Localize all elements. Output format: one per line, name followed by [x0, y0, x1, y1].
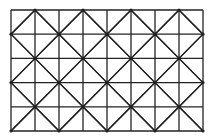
grid-diagram — [0, 0, 220, 138]
grid-line — [35, 0, 59, 10]
grid-line — [131, 83, 155, 107]
grid-line — [0, 107, 11, 131]
grid-line — [0, 10, 11, 34]
node-dot — [57, 33, 60, 36]
grid-line — [179, 10, 203, 34]
grid-line — [59, 83, 83, 107]
grid-line — [35, 131, 59, 138]
grid-line — [203, 58, 220, 82]
grid-line — [59, 0, 83, 10]
grid-lines — [11, 10, 203, 131]
grid-line — [131, 107, 155, 131]
grid-line — [179, 83, 203, 107]
node-dot — [153, 33, 156, 36]
grid-line — [179, 107, 203, 131]
node-dot — [201, 33, 204, 36]
grid-line — [11, 10, 35, 34]
grid-line — [131, 58, 155, 82]
grid-line — [155, 83, 179, 107]
node-dot — [105, 81, 108, 84]
grid-line — [0, 58, 11, 82]
grid-line — [131, 34, 155, 58]
grid-line — [107, 131, 131, 138]
grid-line — [59, 10, 83, 34]
node-dot — [153, 129, 156, 132]
grid-line — [35, 34, 59, 58]
grid-line — [59, 107, 83, 131]
grid-line — [11, 131, 35, 138]
grid-line — [131, 131, 155, 138]
grid-line — [203, 10, 220, 34]
grid-line — [35, 10, 59, 34]
grid-line — [11, 34, 35, 58]
node-dot — [129, 8, 132, 11]
grid-line — [155, 131, 179, 138]
grid-line — [155, 34, 179, 58]
node-dot — [57, 129, 60, 132]
grid-line — [35, 107, 59, 131]
grid-line — [203, 34, 220, 58]
grid-line — [155, 10, 179, 34]
grid-line — [155, 58, 179, 82]
grid-line — [107, 10, 131, 34]
node-dot — [177, 105, 180, 108]
grid-line — [83, 131, 107, 138]
grid-line — [107, 107, 131, 131]
grid-line — [83, 0, 107, 10]
node-dot — [153, 81, 156, 84]
grid-line — [59, 58, 83, 82]
grid-line — [107, 34, 131, 58]
grid-line — [83, 107, 107, 131]
grid-line — [11, 58, 35, 82]
node-dot — [81, 105, 84, 108]
grid-line — [155, 0, 179, 10]
node-dot — [201, 81, 204, 84]
node-dot — [201, 129, 204, 132]
grid-line — [59, 131, 83, 138]
node-dot — [9, 81, 12, 84]
grid-line — [179, 0, 203, 10]
grid-line — [0, 83, 11, 107]
node-dot — [105, 129, 108, 132]
grid-line — [107, 58, 131, 82]
grid-line — [35, 83, 59, 107]
grid-line — [59, 34, 83, 58]
grid-line — [83, 58, 107, 82]
node-dot — [129, 105, 132, 108]
grid-line — [83, 10, 107, 34]
grid-line — [179, 131, 203, 138]
node-dot — [177, 8, 180, 11]
node-dot — [81, 8, 84, 11]
node-dot — [129, 57, 132, 60]
grid-line — [107, 0, 131, 10]
node-dot — [33, 105, 36, 108]
grid-line — [83, 83, 107, 107]
node-dot — [105, 33, 108, 36]
node-dot — [57, 81, 60, 84]
diagonal-lines — [0, 0, 220, 138]
grid-line — [11, 107, 35, 131]
grid-line — [11, 0, 35, 10]
grid-line — [83, 34, 107, 58]
node-dot — [33, 57, 36, 60]
grid-line — [35, 58, 59, 82]
node-dot — [81, 57, 84, 60]
grid-line — [203, 83, 220, 107]
grid-line — [107, 83, 131, 107]
grid-line — [203, 107, 220, 131]
grid-line — [203, 131, 220, 138]
grid-line — [155, 107, 179, 131]
grid-line — [11, 83, 35, 107]
grid-line — [179, 58, 203, 82]
grid-line — [0, 34, 11, 58]
node-dot — [9, 33, 12, 36]
grid-line — [131, 10, 155, 34]
grid-line — [0, 131, 11, 138]
node-dot — [9, 129, 12, 132]
grid-line — [179, 34, 203, 58]
node-dot — [177, 57, 180, 60]
node-dot — [33, 8, 36, 11]
grid-line — [131, 0, 155, 10]
